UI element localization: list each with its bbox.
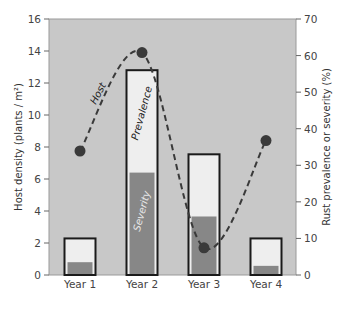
host-marker [75, 146, 86, 157]
left-tick-label: 10 [28, 109, 41, 121]
left-axis: 0246810121416 [28, 13, 49, 281]
left-tick-label: 6 [34, 173, 41, 185]
left-tick-label: 12 [28, 77, 41, 89]
right-axis-title: Rust prevalence or severity (%) [321, 68, 332, 226]
right-tick-label: 40 [304, 123, 317, 135]
left-tick-label: 4 [34, 205, 41, 217]
right-tick-label: 70 [304, 13, 317, 25]
right-axis: 010203040506070 [296, 13, 317, 281]
x-axis: Year 1Year 2Year 3Year 4 [63, 278, 283, 290]
x-tick-label: Year 2 [125, 278, 158, 290]
left-tick-label: 8 [34, 141, 41, 153]
left-tick-label: 0 [34, 269, 41, 281]
right-tick-label: 50 [304, 86, 317, 98]
left-tick-label: 14 [28, 45, 42, 57]
left-axis-title: Host density (plants / m²) [13, 83, 24, 211]
severity-bar [254, 266, 279, 274]
right-tick-label: 10 [304, 232, 317, 244]
severity-bar [68, 262, 93, 274]
x-tick-label: Year 1 [63, 278, 96, 290]
host-marker [261, 135, 272, 146]
left-tick-label: 2 [34, 237, 41, 249]
x-tick-label: Year 3 [187, 278, 220, 290]
right-tick-label: 30 [304, 159, 317, 171]
right-tick-label: 0 [304, 269, 311, 281]
chart: 0246810121416 010203040506070 Year 1Year… [0, 0, 348, 311]
host-marker [199, 242, 210, 253]
right-tick-label: 20 [304, 196, 317, 208]
x-tick-label: Year 4 [249, 278, 283, 290]
left-tick-label: 16 [28, 13, 42, 25]
right-tick-label: 60 [304, 50, 317, 62]
host-marker [137, 47, 148, 58]
